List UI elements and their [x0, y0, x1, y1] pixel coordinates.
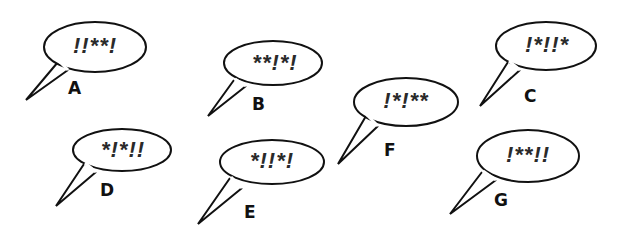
speech-bubble-g: !**!! G	[450, 128, 610, 218]
speech-bubble-icon	[22, 18, 172, 108]
speech-bubble-e: *!!*! E	[196, 138, 336, 228]
speech-bubble-a: !!**! A	[22, 18, 172, 108]
bubble-text: !!**!	[50, 33, 140, 59]
bubble-label: D	[100, 180, 114, 200]
bubble-label: B	[252, 94, 265, 114]
bubble-label: F	[384, 140, 396, 160]
bubble-text: !*!!*	[502, 32, 592, 58]
bubble-text: *!!*!	[227, 148, 317, 174]
speech-bubble-c: !*!!* C	[476, 20, 616, 108]
bubble-label: G	[494, 190, 508, 210]
bubble-text: **!*!	[230, 50, 320, 76]
bubble-label: E	[244, 202, 256, 222]
speech-bubble-d: *!*!! D	[56, 128, 186, 208]
bubble-label: A	[68, 78, 81, 98]
bubble-text: !**!!	[483, 142, 573, 168]
bubble-text: *!*!!	[78, 137, 168, 163]
bubble-label: C	[524, 86, 536, 106]
speech-bubble-f: !*!** F	[336, 76, 466, 166]
speech-bubble-b: **!*! B	[194, 38, 334, 118]
bubble-text: !*!**	[361, 88, 451, 114]
